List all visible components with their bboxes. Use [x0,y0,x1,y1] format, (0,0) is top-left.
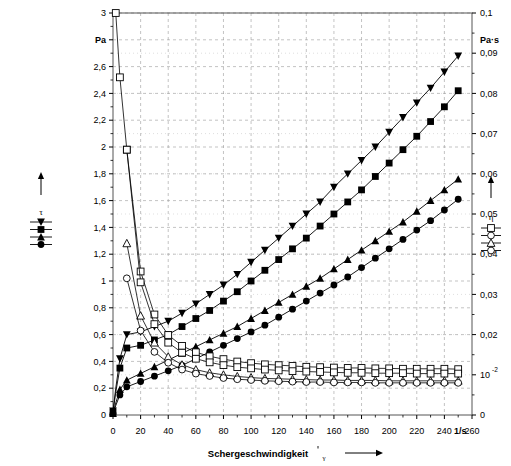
ytick-label-left: 1,6 [93,196,106,206]
marker-filled-circle [317,290,324,297]
ytick-label-right: 0,1 [480,8,493,18]
xtick-label: 200 [382,426,397,436]
marker-filled-square [358,186,365,193]
chart-svg: 00,20,40,60,811,21,41,61,822,22,42,63Pa0… [0,0,511,466]
marker-open-circle [275,378,282,385]
ytick-label-left: 0,6 [93,330,106,340]
marker-open-square [192,355,199,362]
ytick-label-right: 0,06 [480,169,498,179]
xtick-label: 240 [437,426,452,436]
xtick-label: 260 [464,426,479,436]
ytick-label-left: 2,4 [93,89,106,99]
legend-right-symbol: η [489,212,494,222]
marker-filled-square [275,256,282,263]
marker-filled-square [261,267,268,274]
marker-filled-circle [117,392,124,399]
marker-filled-square [248,278,255,285]
marker-filled-square [386,160,393,167]
marker-open-circle [441,379,448,386]
marker-filled-circle [372,255,379,262]
marker-open-circle [358,379,365,386]
x-axis-arrow-head [376,450,383,456]
marker-open-circle [455,379,462,386]
ytick-label-right: 0,09 [480,48,498,58]
ytick-label-left: 2,2 [93,115,106,125]
marker-filled-circle [400,236,407,243]
marker-open-square [386,370,393,377]
x-axis-title: Schergeschwindigkeit [208,448,309,459]
marker-filled-circle [248,329,255,336]
marker-open-circle [344,379,351,386]
marker-open-square [123,146,130,153]
marker-filled-circle [165,367,172,374]
marker-filled-square [117,365,124,372]
ytick-label-left: 1,2 [93,249,106,259]
ytick-label-left: 0,4 [93,357,106,367]
marker-open-square [112,10,119,17]
marker-open-circle [413,379,420,386]
marker-filled-circle [123,383,130,390]
ytick-label-left: 2,6 [93,62,106,72]
xtick-label: 120 [271,426,286,436]
marker-open-square [117,74,124,81]
marker-filled-circle [38,241,45,248]
marker-filled-circle [331,282,338,289]
ytick-label-right: 10 [480,370,490,380]
xtick-label: 180 [354,426,369,436]
marker-open-square [261,366,268,373]
marker-open-square [400,370,407,377]
marker-open-circle [289,378,296,385]
marker-filled-circle [303,298,310,305]
marker-filled-square [413,133,420,140]
ytick-label-left: 1 [101,276,106,286]
marker-open-square [234,364,241,371]
xtick-label: 80 [218,426,228,436]
marker-open-square [275,367,282,374]
xtick-label: 160 [326,426,341,436]
marker-filled-square [38,226,45,233]
marker-open-circle [427,379,434,386]
marker-open-square [151,321,158,328]
marker-open-circle [317,379,324,386]
marker-open-circle [372,379,379,386]
xtick-label: 220 [409,426,424,436]
xtick-label: 40 [163,426,173,436]
xtick-label: 0 [110,426,115,436]
marker-filled-square [331,211,338,218]
marker-open-square [179,342,186,349]
ytick-label-left: 1,4 [93,223,106,233]
marker-open-circle [248,377,255,384]
y-right-unit: Pa·s [480,35,499,45]
legend-left-arrow-head [38,172,44,179]
marker-filled-circle [358,264,365,271]
marker-open-circle [303,379,310,386]
marker-filled-circle [413,227,420,234]
marker-open-square [165,339,172,346]
marker-filled-circle [344,274,351,281]
ytick-label-right: 0,02 [480,330,498,340]
marker-filled-square [179,323,186,330]
marker-open-square [179,349,186,356]
marker-open-circle [488,232,495,239]
marker-filled-square [427,118,434,125]
marker-filled-square [344,199,351,206]
marker-open-square [289,368,296,375]
ytick-label-right: 0,08 [480,89,498,99]
xtick-label: 20 [136,426,146,436]
ytick-label-right: 0,03 [480,290,498,300]
marker-open-square [165,332,172,339]
marker-filled-square [137,342,144,349]
marker-open-square [137,268,144,275]
marker-filled-square [372,173,379,180]
marker-open-circle [123,275,130,282]
marker-open-square [331,369,338,376]
marker-filled-square [317,223,324,230]
ytick-label-left: 2 [101,142,106,152]
marker-open-square [220,362,227,369]
marker-filled-circle [220,342,227,349]
marker-filled-square [220,298,227,305]
marker-filled-square [192,315,199,322]
marker-open-square [488,225,495,232]
ytick-label-right: 0 [480,410,485,420]
marker-open-circle [400,379,407,386]
